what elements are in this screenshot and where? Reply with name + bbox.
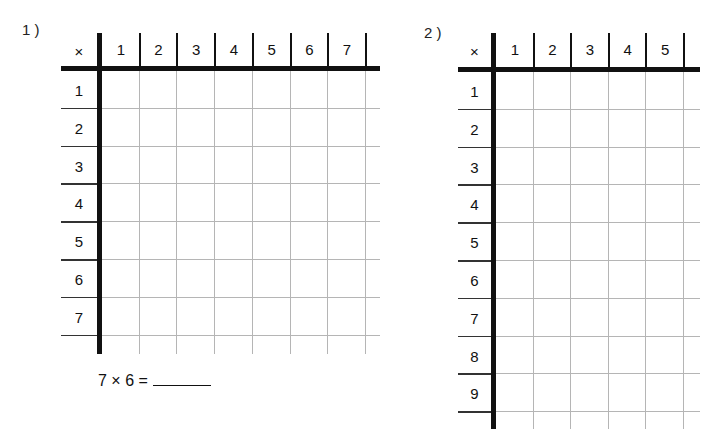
answer-cell[interactable] [610, 186, 645, 221]
row-header: 7 [458, 310, 491, 327]
grid-line-vertical [533, 72, 534, 429]
row-divider [458, 222, 491, 224]
answer-cell[interactable] [497, 300, 532, 335]
answer-cell[interactable] [535, 375, 570, 410]
grid-line-horizontal [496, 336, 700, 337]
answer-cell[interactable] [497, 111, 532, 146]
answer-cell[interactable] [497, 375, 532, 410]
column-header: 3 [571, 41, 609, 58]
row-header: 6 [458, 272, 491, 289]
row-divider [458, 260, 491, 262]
corner-times-symbol: × [458, 43, 491, 60]
row-divider [458, 411, 491, 413]
row-header: 1 [458, 83, 491, 100]
answer-cell[interactable] [497, 149, 532, 184]
grid-line-horizontal [496, 373, 700, 374]
answer-cell[interactable] [572, 186, 607, 221]
answer-cell[interactable] [497, 186, 532, 221]
row-divider [458, 147, 491, 149]
grid-line-horizontal [496, 298, 700, 299]
answer-cell[interactable] [647, 111, 682, 146]
answer-cell[interactable] [572, 149, 607, 184]
answer-cell[interactable] [647, 186, 682, 221]
row-divider [458, 109, 491, 111]
header-divider [683, 33, 685, 67]
answer-cell[interactable] [610, 73, 645, 108]
answer-cell[interactable] [535, 186, 570, 221]
grid-line-vertical [608, 72, 609, 429]
row-header: 5 [458, 234, 491, 251]
multiplication-table-2: ×12345123456789 [0, 0, 722, 448]
answer-cell[interactable] [647, 73, 682, 108]
grid-line-vertical [645, 72, 646, 429]
answer-cell[interactable] [572, 73, 607, 108]
answer-cell[interactable] [647, 262, 682, 297]
grid-line-horizontal [496, 147, 700, 148]
answer-cell[interactable] [610, 338, 645, 373]
grid-line-vertical [570, 72, 571, 429]
answer-cell[interactable] [610, 375, 645, 410]
answer-cell[interactable] [610, 262, 645, 297]
row-divider [458, 298, 491, 300]
grid-line-horizontal [496, 411, 700, 412]
grid-line-vertical [683, 72, 684, 429]
answer-cell[interactable] [497, 73, 532, 108]
row-divider [458, 184, 491, 186]
answer-cell[interactable] [572, 111, 607, 146]
answer-cell[interactable] [610, 111, 645, 146]
row-divider [458, 373, 491, 375]
answer-cell[interactable] [647, 338, 682, 373]
answer-cell[interactable] [535, 262, 570, 297]
answer-cell[interactable] [535, 149, 570, 184]
row-header: 9 [458, 385, 491, 402]
column-header: 4 [609, 41, 647, 58]
answer-cell[interactable] [535, 73, 570, 108]
answer-cell[interactable] [572, 224, 607, 259]
answer-cell[interactable] [647, 300, 682, 335]
row-divider [458, 336, 491, 338]
row-axis-line [491, 33, 496, 429]
row-header: 2 [458, 121, 491, 138]
answer-cell[interactable] [647, 375, 682, 410]
answer-cell[interactable] [497, 224, 532, 259]
column-header: 2 [534, 41, 572, 58]
answer-cell[interactable] [610, 224, 645, 259]
answer-cell[interactable] [497, 338, 532, 373]
answer-cell[interactable] [535, 111, 570, 146]
row-header: 8 [458, 348, 491, 365]
column-header: 5 [646, 41, 684, 58]
answer-cell[interactable] [610, 300, 645, 335]
answer-cell[interactable] [535, 300, 570, 335]
answer-cell[interactable] [647, 149, 682, 184]
answer-cell[interactable] [497, 262, 532, 297]
grid-line-horizontal [496, 184, 700, 185]
answer-cell[interactable] [572, 338, 607, 373]
column-header: 1 [496, 41, 534, 58]
answer-cell[interactable] [610, 149, 645, 184]
answer-cell[interactable] [535, 338, 570, 373]
answer-cell[interactable] [572, 300, 607, 335]
row-header: 3 [458, 159, 491, 176]
grid-line-horizontal [496, 109, 700, 110]
grid-line-horizontal [496, 260, 700, 261]
grid-line-horizontal [496, 222, 700, 223]
answer-cell[interactable] [647, 224, 682, 259]
answer-cell[interactable] [535, 224, 570, 259]
row-header: 4 [458, 196, 491, 213]
answer-cell[interactable] [572, 375, 607, 410]
answer-cell[interactable] [572, 262, 607, 297]
